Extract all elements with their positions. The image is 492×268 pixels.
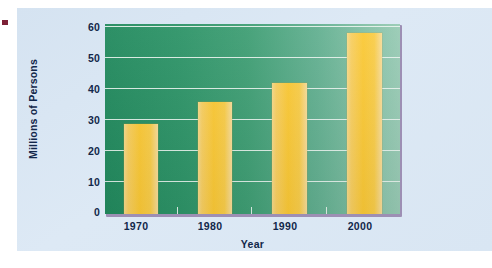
x-tickmark (177, 207, 178, 214)
y-axis-tick-labels: 60 50 40 30 20 10 0 (64, 0, 100, 268)
x-tickmark (326, 207, 327, 214)
bar-2000 (347, 33, 382, 214)
x-axis-title: Year (105, 238, 400, 250)
bar-1970 (124, 124, 158, 214)
y-tick-label: 60 (66, 21, 100, 33)
bar-1990 (272, 83, 307, 214)
x-tick-label-2000: 2000 (330, 220, 390, 232)
x-tickmark (251, 207, 252, 214)
plot-area (105, 24, 400, 214)
chart-figure: Millions of Persons 60 50 40 30 20 10 0 … (0, 0, 492, 268)
y-tick-label: 30 (66, 114, 100, 126)
y-tick-label: 20 (66, 145, 100, 157)
bar-1980 (198, 102, 232, 214)
register-mark (2, 20, 8, 25)
y-axis-title: Millions of Persons (27, 29, 39, 189)
x-tick-label-1970: 1970 (106, 220, 166, 232)
x-tick-label-1980: 1980 (180, 220, 240, 232)
y-tick-label: 40 (66, 83, 100, 95)
x-tick-label-1990: 1990 (255, 220, 315, 232)
y-tick-label: 10 (66, 176, 100, 188)
gridline-60 (105, 26, 400, 27)
y-tick-label: 50 (66, 52, 100, 64)
y-tick-label: 0 (66, 206, 100, 218)
